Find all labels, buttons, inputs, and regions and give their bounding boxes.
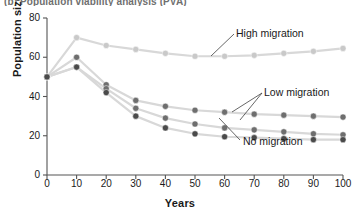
x-tick-label: 50 [180,179,210,189]
x-tick-label: 70 [239,179,269,189]
y-tick-label: 80 [14,13,40,23]
pva-figure: (b) Population viability analysis (PVA) … [0,0,360,224]
annotation-high: High migration [236,28,304,39]
y-tick-label: 60 [14,52,40,62]
x-tick-label: 60 [210,179,240,189]
annotation-none: No migration [243,136,303,147]
annotation-low: Low migration [264,87,329,98]
x-tick-label: 100 [328,179,358,189]
x-tick-label: 90 [298,179,328,189]
x-tick-label: 30 [121,179,151,189]
x-axis-label: Years [0,197,360,209]
x-tick-label: 10 [62,179,92,189]
y-tick-label: 20 [14,131,40,141]
y-tick-label: 40 [14,92,40,102]
x-tick-label: 80 [269,179,299,189]
x-tick-label: 40 [150,179,180,189]
x-tick-label: 20 [91,179,121,189]
x-tick-label: 0 [32,179,62,189]
figure-caption: (b) Population viability analysis (PVA) [4,0,360,6]
